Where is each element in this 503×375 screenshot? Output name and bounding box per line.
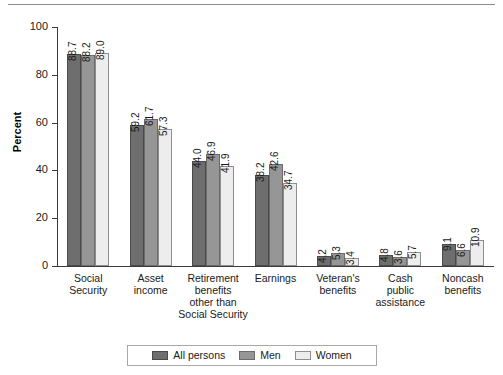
bar <box>283 183 297 266</box>
x-axis-line <box>57 266 494 267</box>
legend-item: All persons <box>152 350 225 361</box>
x-axis-group-label: Noncashbenefits <box>415 272 503 296</box>
bar-value-label: 38.2 <box>256 162 266 181</box>
plot-area: 88.788.289.059.261.757.344.046.941.938.2… <box>57 27 494 266</box>
bar-value-label: 34.7 <box>284 171 294 190</box>
bar-value-label: 42.6 <box>270 152 280 171</box>
y-axis-label: Percent <box>11 92 23 172</box>
bar <box>130 125 144 266</box>
bar-value-label: 10.9 <box>471 227 481 246</box>
y-tick-label: 0 <box>0 260 48 271</box>
bar <box>269 164 283 266</box>
x-axis-label-line: other than <box>165 296 261 308</box>
y-tick-label: 40 <box>0 164 48 175</box>
bar-value-label: 4.8 <box>380 248 390 262</box>
bar <box>220 166 234 266</box>
bar <box>81 55 95 266</box>
bar-value-label: 88.2 <box>82 43 92 62</box>
y-tick-label: 100 <box>0 21 48 32</box>
bar <box>206 154 220 266</box>
bar-value-label: 89.0 <box>96 41 106 60</box>
bar <box>144 119 158 266</box>
bar <box>158 129 172 266</box>
chart-legend: All personsMenWomen <box>127 345 377 366</box>
bar-value-label: 3.6 <box>394 250 404 264</box>
legend-label: Men <box>260 350 280 361</box>
legend-item: Women <box>295 350 352 361</box>
bar-value-label: 88.7 <box>68 42 78 61</box>
x-axis-label-line: Noncash <box>415 272 503 284</box>
legend-swatch <box>239 351 255 360</box>
bar <box>67 54 81 266</box>
bar-value-label: 5.3 <box>332 246 342 260</box>
bar-value-label: 6.6 <box>457 243 467 257</box>
bar-value-label: 9.1 <box>443 237 453 251</box>
bar-value-label: 59.2 <box>131 112 141 131</box>
bar <box>95 53 109 266</box>
x-axis-label-line: Social Security <box>165 308 261 320</box>
bar <box>255 175 269 266</box>
bar-value-label: 61.7 <box>145 106 155 125</box>
x-axis-label-line: benefits <box>415 284 503 296</box>
x-axis-label-line: assistance <box>352 296 448 308</box>
bar-value-label: 57.3 <box>159 117 169 136</box>
legend-label: All persons <box>173 350 225 361</box>
legend-swatch <box>295 351 311 360</box>
legend-item: Men <box>239 350 280 361</box>
chart-figure: 020406080100 Percent 88.788.289.059.261.… <box>0 0 503 375</box>
bar <box>192 161 206 266</box>
bar-value-label: 46.9 <box>207 141 217 160</box>
bar-value-label: 5.7 <box>408 245 418 259</box>
y-tick-mark <box>52 266 57 267</box>
bar-value-label: 3.4 <box>346 251 356 265</box>
legend-label: Women <box>316 350 352 361</box>
bar-value-label: 44.0 <box>193 148 203 167</box>
y-tick-label: 20 <box>0 212 48 223</box>
legend-swatch <box>152 351 168 360</box>
top-divider-rule <box>8 4 495 5</box>
bar-value-label: 41.9 <box>221 153 231 172</box>
bar-value-label: 4.2 <box>318 249 328 263</box>
y-tick-label: 60 <box>0 117 48 128</box>
y-tick-label: 80 <box>0 69 48 80</box>
x-axis-label-line: benefits <box>165 284 261 296</box>
